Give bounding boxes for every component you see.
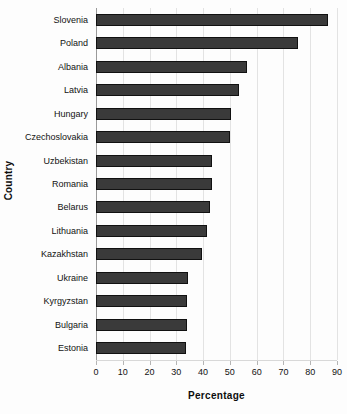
- bar: [96, 131, 230, 143]
- x-tick-mark: [203, 361, 204, 365]
- bar: [96, 225, 207, 237]
- x-tick-mark: [123, 361, 124, 365]
- x-tick-mark: [96, 361, 97, 365]
- category-label: Bulgaria: [55, 319, 88, 331]
- x-tick-label: 60: [245, 367, 269, 377]
- x-tick-label: 70: [271, 367, 295, 377]
- gridline: [310, 8, 311, 360]
- bar: [96, 155, 212, 167]
- x-tick-mark: [337, 361, 338, 365]
- bar: [96, 248, 202, 260]
- x-tick-label: 10: [111, 367, 135, 377]
- category-label: Latvia: [64, 84, 88, 96]
- x-tick-label: 20: [138, 367, 162, 377]
- x-tick-label: 40: [191, 367, 215, 377]
- bar: [96, 14, 328, 26]
- category-label: Hungary: [54, 108, 88, 120]
- y-axis-title-text: Country: [4, 160, 15, 200]
- bar: [96, 295, 187, 307]
- x-tick-mark: [150, 361, 151, 365]
- x-tick-label: 80: [298, 367, 322, 377]
- bar: [96, 272, 188, 284]
- bar: [96, 319, 187, 331]
- x-tick-label: 30: [164, 367, 188, 377]
- bar: [96, 178, 212, 190]
- category-label: Estonia: [58, 342, 88, 354]
- bar: [96, 201, 210, 213]
- x-tick-label: 50: [218, 367, 242, 377]
- x-tick-label: 0: [84, 367, 108, 377]
- category-label: Belarus: [57, 201, 88, 213]
- category-label: Czechoslovakia: [25, 131, 88, 143]
- x-tick-mark: [257, 361, 258, 365]
- bar: [96, 84, 239, 96]
- bar: [96, 37, 298, 49]
- gridline: [337, 8, 338, 360]
- category-label: Lithuania: [51, 225, 88, 237]
- x-tick-label: 90: [325, 367, 347, 377]
- bar: [96, 61, 247, 73]
- category-label: Slovenia: [53, 14, 88, 26]
- category-label: Ukraine: [57, 272, 88, 284]
- category-label: Kyrgyzstan: [43, 295, 88, 307]
- x-tick-mark: [230, 361, 231, 365]
- category-label: Uzbekistan: [43, 155, 88, 167]
- x-tick-mark: [310, 361, 311, 365]
- category-label: Romania: [52, 178, 88, 190]
- bar: [96, 342, 186, 354]
- category-label-column: SloveniaPolandAlbaniaLatviaHungaryCzecho…: [18, 8, 92, 360]
- x-axis-ticks: 0102030405060708090: [96, 361, 337, 377]
- bar-chart: Country SloveniaPolandAlbaniaLatviaHunga…: [0, 0, 347, 414]
- plot-area: [96, 8, 337, 360]
- category-label: Albania: [58, 61, 88, 73]
- bar: [96, 108, 231, 120]
- category-label: Kazakhstan: [41, 248, 88, 260]
- x-tick-mark: [176, 361, 177, 365]
- category-label: Poland: [60, 37, 88, 49]
- gridline: [257, 8, 258, 360]
- x-tick-mark: [283, 361, 284, 365]
- gridline: [283, 8, 284, 360]
- x-axis-title: Percentage: [96, 390, 337, 401]
- y-axis-title: Country: [0, 0, 18, 360]
